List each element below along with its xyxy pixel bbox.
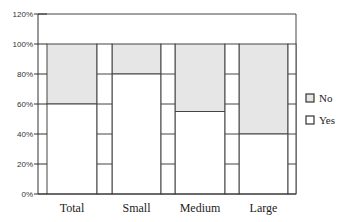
- y-tick-label: 0%: [21, 190, 33, 199]
- y-tick-label: 20%: [17, 160, 33, 169]
- y-tick-label: 80%: [17, 70, 33, 79]
- bar-yes-small: [112, 74, 161, 194]
- category-label: Medium: [180, 201, 221, 215]
- y-tick-label: 100%: [13, 40, 33, 49]
- category-label: Total: [60, 201, 85, 215]
- bar-yes-large: [239, 134, 288, 194]
- legend-label: No: [319, 92, 333, 104]
- y-tick-label: 60%: [17, 100, 33, 109]
- legend-label: Yes: [319, 114, 335, 126]
- legend-swatch-yes: [306, 116, 314, 124]
- legend: NoYes: [306, 92, 335, 126]
- y-tick-label: 120%: [13, 10, 33, 19]
- bar-yes-total: [47, 104, 97, 194]
- stacked-bar-chart: 0%20%40%60%80%100%120% TotalSmallMediumL…: [0, 0, 349, 222]
- gap-column: [161, 44, 175, 194]
- category-label: Large: [250, 201, 278, 215]
- gap-column: [225, 44, 239, 194]
- y-tick-label: 40%: [17, 130, 33, 139]
- x-axis-labels: TotalSmallMediumLarge: [60, 201, 278, 215]
- plot-area: [38, 14, 296, 194]
- bar-no-total: [47, 44, 97, 104]
- bar-no-small: [112, 44, 161, 74]
- legend-swatch-no: [306, 94, 314, 102]
- bar-yes-medium: [175, 112, 225, 195]
- bar-no-medium: [175, 44, 225, 112]
- gap-column: [97, 44, 112, 194]
- bar-no-large: [239, 44, 288, 134]
- category-label: Small: [122, 201, 151, 215]
- gap-column: [288, 44, 296, 194]
